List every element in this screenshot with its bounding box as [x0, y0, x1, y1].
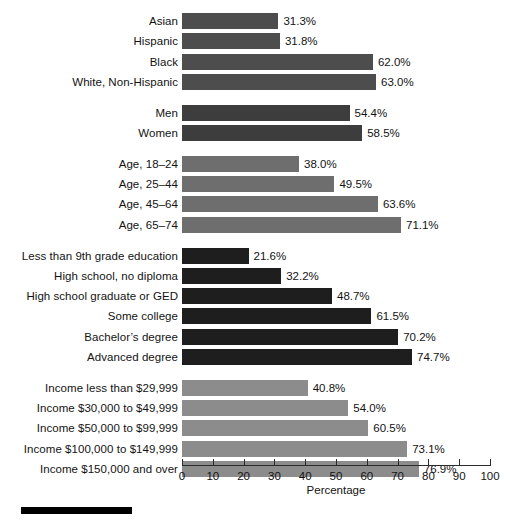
bar-row: Age, 25–4449.5% [0, 176, 520, 192]
bar-race-ethnicity [182, 74, 376, 90]
x-axis-title: Percentage [182, 484, 490, 496]
bar-rows-container: Asian31.3%Hispanic31.8%Black62.0%White, … [0, 0, 520, 466]
bar-value-label: 31.8% [285, 33, 318, 49]
bar-category-label: Income $50,000 to $99,999 [37, 420, 178, 436]
bar-category-label: Income $150,000 and over [40, 461, 178, 477]
bar-category-label: Men [155, 105, 178, 121]
bar-value-label: 54.4% [355, 105, 388, 121]
bar-value-label: 73.1% [412, 441, 445, 457]
bar-category-label: Women [138, 125, 178, 141]
bar-race-ethnicity [182, 33, 280, 49]
bar-row: High school, no diploma32.2% [0, 268, 520, 284]
bar-category-label: High school, no diploma [54, 268, 178, 284]
bar-value-label: 63.0% [381, 74, 414, 90]
bar-income [182, 441, 407, 457]
bar-row: Income $150,000 and over76.9% [0, 461, 520, 477]
bar-category-label: High school graduate or GED [26, 288, 178, 304]
bar-gender [182, 125, 362, 141]
bar-category-label: Age, 18–24 [119, 156, 178, 172]
bar-value-label: 54.0% [353, 400, 386, 416]
bar-value-label: 58.5% [367, 125, 400, 141]
bar-income [182, 461, 419, 477]
bar-row: Black62.0% [0, 54, 520, 70]
bar-value-label: 61.5% [376, 308, 409, 324]
bar-race-ethnicity [182, 13, 278, 29]
bar-age [182, 156, 299, 172]
bar-category-label: Income $100,000 to $149,999 [24, 441, 178, 457]
bar-category-label: Age, 25–44 [119, 176, 178, 192]
bar-education [182, 329, 398, 345]
bar-value-label: 71.1% [406, 217, 439, 233]
bar-value-label: 49.5% [339, 176, 372, 192]
bar-row: White, Non-Hispanic63.0% [0, 74, 520, 90]
bar-value-label: 31.3% [283, 13, 316, 29]
bar-row: Age, 65–7471.1% [0, 217, 520, 233]
bar-category-label: Age, 45–64 [119, 196, 178, 212]
bar-category-label: Advanced degree [87, 349, 178, 365]
bar-category-label: Age, 65–74 [119, 217, 178, 233]
bar-row: Income $100,000 to $149,99973.1% [0, 441, 520, 457]
bar-age [182, 217, 401, 233]
bar-row: Income less than $29,99940.8% [0, 380, 520, 396]
bar-education [182, 268, 281, 284]
bar-row: Advanced degree74.7% [0, 349, 520, 365]
bar-category-label: Asian [149, 13, 178, 29]
bar-row: Men54.4% [0, 105, 520, 121]
bar-value-label: 62.0% [378, 54, 411, 70]
bar-chart-figure: Asian31.3%Hispanic31.8%Black62.0%White, … [0, 0, 520, 521]
bar-row: Some college61.5% [0, 308, 520, 324]
bar-category-label: Hispanic [133, 33, 178, 49]
bar-age [182, 196, 378, 212]
bar-row: Income $30,000 to $49,99954.0% [0, 400, 520, 416]
bar-row: Hispanic31.8% [0, 33, 520, 49]
bar-row: Age, 18–2438.0% [0, 156, 520, 172]
bar-education [182, 308, 371, 324]
bar-category-label: Income less than $29,999 [45, 380, 178, 396]
bar-row: High school graduate or GED48.7% [0, 288, 520, 304]
bar-value-label: 63.6% [383, 196, 416, 212]
bar-value-label: 38.0% [304, 156, 337, 172]
bar-category-label: White, Non-Hispanic [72, 74, 178, 90]
bar-row: Age, 45–6463.6% [0, 196, 520, 212]
bar-row: Asian31.3% [0, 13, 520, 29]
bar-value-label: 32.2% [286, 268, 319, 284]
bar-value-label: 60.5% [373, 420, 406, 436]
bar-category-label: Income $30,000 to $49,999 [37, 400, 178, 416]
bar-race-ethnicity [182, 54, 373, 70]
bar-value-label: 70.2% [403, 329, 436, 345]
bar-value-label: 76.9% [424, 461, 457, 477]
bar-row: Women58.5% [0, 125, 520, 141]
bar-row: Bachelor’s degree70.2% [0, 329, 520, 345]
bar-age [182, 176, 334, 192]
bar-value-label: 48.7% [337, 288, 370, 304]
bar-value-label: 21.6% [254, 248, 287, 264]
bar-income [182, 420, 368, 436]
bar-value-label: 74.7% [417, 349, 450, 365]
footer-rule [21, 507, 132, 514]
bar-income [182, 400, 348, 416]
bar-income [182, 380, 308, 396]
bar-category-label: Bachelor’s degree [84, 329, 178, 345]
bar-education [182, 248, 249, 264]
bar-category-label: Less than 9th grade education [22, 248, 178, 264]
bar-education [182, 288, 332, 304]
bar-value-label: 40.8% [313, 380, 346, 396]
bar-education [182, 349, 412, 365]
bar-row: Income $50,000 to $99,99960.5% [0, 420, 520, 436]
bar-category-label: Some college [108, 308, 178, 324]
bar-category-label: Black [150, 54, 178, 70]
bar-row: Less than 9th grade education21.6% [0, 248, 520, 264]
bar-gender [182, 105, 350, 121]
